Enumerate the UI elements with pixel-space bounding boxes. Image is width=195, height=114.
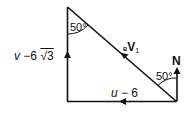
vertical-side-root3: √3: [40, 49, 53, 63]
vertical-side-v: v: [14, 49, 20, 63]
horizontal-side-rest: − 6: [121, 86, 138, 100]
bottom-right-angle-label: 50°: [156, 71, 173, 82]
top-angle-label: 50°: [70, 22, 87, 33]
hypotenuse-label: BV1: [123, 38, 139, 54]
vertical-arrowhead-icon: [64, 51, 71, 58]
north-label: N: [172, 55, 181, 67]
horizontal-side-label: u − 6: [111, 87, 138, 99]
north-arrowhead: [174, 67, 181, 74]
vertical-side-minus6: −6: [23, 49, 37, 63]
vertical-side-label: v −6 √3: [14, 50, 54, 62]
horizontal-side-u: u: [111, 86, 118, 100]
hypotenuse-sub: 1: [135, 47, 139, 54]
